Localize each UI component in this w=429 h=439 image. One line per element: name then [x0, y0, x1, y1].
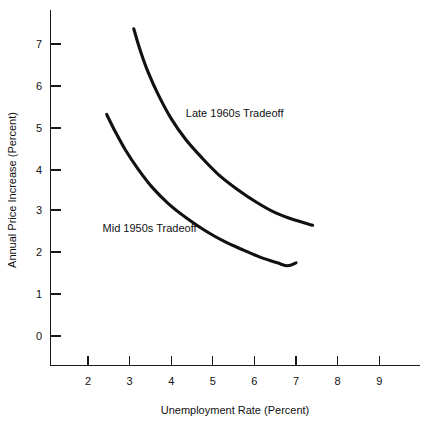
y-tick-label: 5 [36, 122, 42, 134]
y-tick-5: 5 [36, 122, 61, 134]
x-tick-2: 2 [85, 356, 91, 387]
x-tick-3: 3 [127, 356, 133, 387]
x-tick-6: 6 [251, 356, 257, 387]
mid-1950s-tradeoff-label: Mid 1950s Tradeoff [103, 222, 198, 234]
x-tick-7: 7 [293, 356, 299, 387]
x-tick-label: 4 [168, 375, 174, 387]
y-tick-label: 3 [36, 204, 42, 216]
phillips-curve-chart: 7 6 5 4 3 2 1 [0, 0, 429, 439]
y-tick-label: 4 [36, 164, 42, 176]
x-axis-title: Unemployment Rate (Percent) [161, 404, 310, 416]
x-tick-label: 7 [293, 375, 299, 387]
y-tick-label: 2 [36, 246, 42, 258]
y-tick-label: 6 [36, 80, 42, 92]
x-tick-label: 8 [335, 375, 341, 387]
y-tick-label: 1 [36, 288, 42, 300]
y-tick-0: 0 [36, 330, 61, 342]
x-tick-8: 8 [335, 356, 341, 387]
late-1960s-tradeoff-label: Late 1960s Tradeoff [186, 107, 285, 119]
x-tick-label: 6 [251, 375, 257, 387]
chart-canvas: 7 6 5 4 3 2 1 [0, 0, 429, 439]
x-tick-5: 5 [210, 356, 216, 387]
y-tick-6: 6 [36, 80, 61, 92]
y-tick-label: 7 [36, 38, 42, 50]
y-tick-1: 1 [36, 288, 61, 300]
x-tick-9: 9 [376, 356, 382, 387]
x-tick-label: 9 [376, 375, 382, 387]
y-tick-4: 4 [36, 164, 61, 176]
y-tick-label: 0 [36, 330, 42, 342]
x-tick-label: 3 [127, 375, 133, 387]
x-tick-label: 5 [210, 375, 216, 387]
y-tick-2: 2 [36, 246, 61, 258]
y-axis-title: Annual Price Increase (Percent) [6, 112, 18, 268]
y-tick-3: 3 [36, 204, 61, 216]
y-tick-7: 7 [36, 38, 61, 50]
y-axis-ticks: 7 6 5 4 3 2 1 [36, 38, 61, 342]
x-tick-label: 2 [85, 375, 91, 387]
x-tick-4: 4 [168, 356, 174, 387]
mid-1950s-tradeoff-curve [107, 114, 296, 265]
x-axis-ticks: 2 3 4 5 6 7 8 [85, 356, 382, 387]
